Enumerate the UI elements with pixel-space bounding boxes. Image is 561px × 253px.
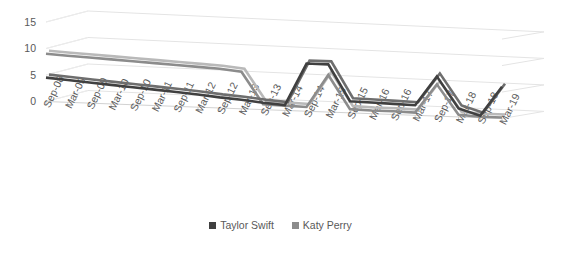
legend-swatch-icon xyxy=(292,222,299,229)
y-axis-tick-label: 10 xyxy=(24,42,36,54)
gridline xyxy=(46,11,544,39)
chart-container: 051015Sep-08Mar-09Sep-09Mar-10Sep-10Mar-… xyxy=(0,0,561,253)
gridline-depth-edge xyxy=(46,64,88,75)
line-chart-plot-area: 051015Sep-08Mar-09Sep-09Mar-10Sep-10Mar-… xyxy=(0,0,561,253)
x-axis-tick-label: Mar-19 xyxy=(497,91,522,126)
legend-swatch-icon xyxy=(209,222,216,229)
legend-item-katy-perry[interactable]: Katy Perry xyxy=(292,219,352,231)
y-axis-tick-label: 5 xyxy=(30,69,36,81)
legend-item-taylor-swift[interactable]: Taylor Swift xyxy=(209,219,274,231)
chart-legend: Taylor Swift Katy Perry xyxy=(0,219,561,231)
y-axis-labels: 051015 xyxy=(24,16,36,108)
legend-label: Taylor Swift xyxy=(220,219,274,231)
y-axis-tick-label: 0 xyxy=(30,95,36,107)
legend-label: Katy Perry xyxy=(303,219,352,231)
gridline-depth-edge xyxy=(46,11,88,22)
gridline-depth-edge xyxy=(46,38,88,49)
y-axis-tick-label: 15 xyxy=(24,16,36,28)
